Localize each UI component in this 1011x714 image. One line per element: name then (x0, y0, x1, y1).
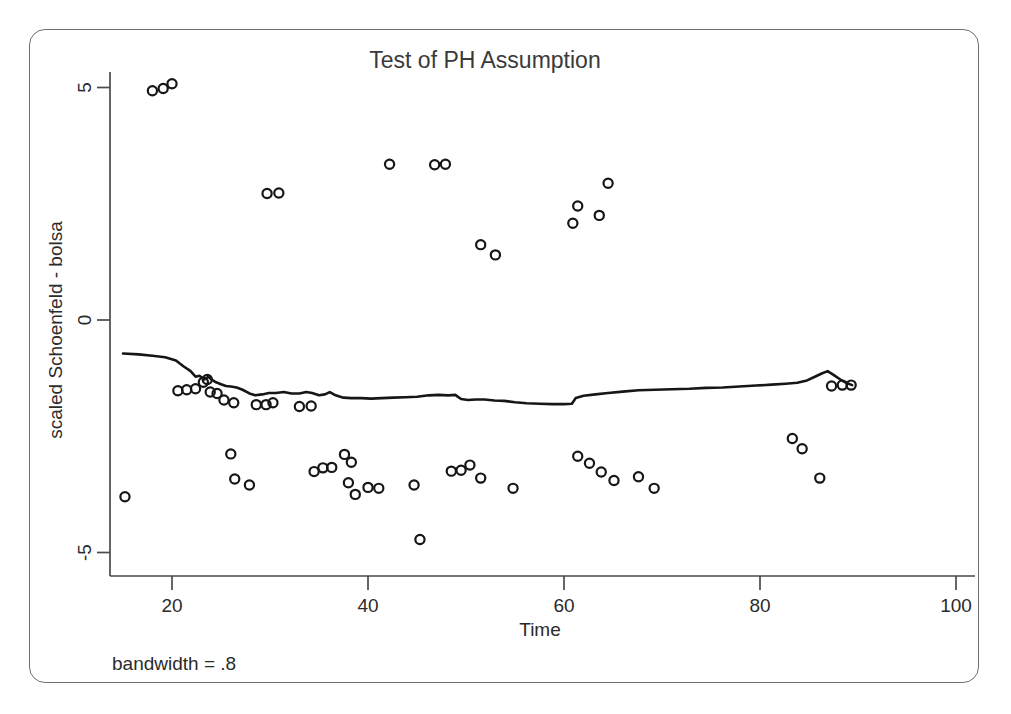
scatter-point (476, 474, 485, 483)
scatter-point (351, 490, 360, 499)
y-tick-label: 0 (74, 315, 95, 326)
scatter-point (409, 480, 418, 489)
figure-container: 50-5 20406080100 Test of PH Assumption T… (0, 0, 1011, 714)
chart-title: Test of PH Assumption (369, 47, 600, 73)
scatter-point (385, 160, 394, 169)
scatter-point (230, 474, 239, 483)
lowess-smooth-line (123, 353, 852, 404)
scatter-point (476, 240, 485, 249)
scatter-point (226, 449, 235, 458)
scatter-point (573, 201, 582, 210)
y-tick-label: -5 (74, 544, 95, 561)
scatter-point (568, 219, 577, 228)
scatter-point (295, 402, 304, 411)
scatter-point (508, 484, 517, 493)
scatter-point (491, 250, 500, 259)
scatter-point (827, 381, 836, 390)
x-tick-label: 100 (940, 595, 972, 616)
x-tick-label: 80 (749, 595, 770, 616)
scatter-point (229, 398, 238, 407)
scatter-point (609, 476, 618, 485)
scatter-point (347, 458, 356, 467)
scatter-point (219, 395, 228, 404)
scatter-point (363, 483, 372, 492)
scatter-point (415, 535, 424, 544)
scatter-point (245, 480, 254, 489)
scatter-point (788, 434, 797, 443)
scatter-point (340, 450, 349, 459)
scatter-point (120, 492, 129, 501)
y-tick-label: 5 (74, 82, 95, 93)
scatter-point (595, 211, 604, 220)
scatter-point (573, 452, 582, 461)
scatter-point (815, 474, 824, 483)
y-axis-title: scaled Schoenfeld - bolsa (45, 221, 66, 439)
scatter-point (465, 460, 474, 469)
scatter-point (167, 79, 176, 88)
scatter-point (274, 188, 283, 197)
x-axis-title: Time (519, 619, 561, 640)
x-tick-label: 40 (357, 595, 378, 616)
axes-group (110, 72, 975, 576)
scatter-point (798, 444, 807, 453)
scatter-point (374, 484, 383, 493)
scatter-point (344, 478, 353, 487)
bandwidth-note: bandwidth = .8 (112, 653, 236, 674)
chart-plot: 50-5 20406080100 Test of PH Assumption T… (0, 0, 1011, 714)
scatter-point (307, 401, 316, 410)
scatter-point (441, 160, 450, 169)
scatter-point (604, 179, 613, 188)
x-tick-label: 20 (161, 595, 182, 616)
scatter-point (585, 459, 594, 468)
scatter-points-group (120, 79, 855, 544)
scatter-point (159, 84, 168, 93)
y-axis-ticks: 50-5 (74, 82, 110, 561)
scatter-point (430, 160, 439, 169)
scatter-point (262, 189, 271, 198)
x-tick-label: 60 (553, 595, 574, 616)
scatter-point (650, 484, 659, 493)
scatter-point (457, 466, 466, 475)
scatter-point (597, 467, 606, 476)
scatter-point (447, 467, 456, 476)
smooth-line-path (123, 353, 852, 404)
x-axis-ticks: 20406080100 (161, 576, 971, 616)
scatter-point (252, 400, 261, 409)
scatter-point (634, 472, 643, 481)
scatter-point (148, 86, 157, 95)
